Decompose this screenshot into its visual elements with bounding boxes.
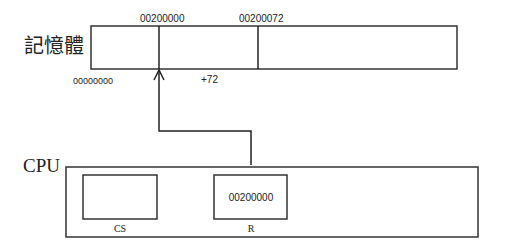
base-address: 00000000: [73, 76, 113, 86]
memory-label: 記憶體: [24, 34, 84, 58]
register-r-value: 00200000: [229, 192, 274, 203]
register-cs-box: [83, 175, 157, 219]
memory-strip: [91, 26, 457, 69]
target-address: 00200072: [239, 13, 284, 24]
segment-start-address: 00200000: [140, 13, 185, 24]
offset-label: +72: [201, 74, 218, 85]
cpu-label: CPU: [23, 155, 60, 176]
register-r-label: R: [248, 223, 255, 234]
register-cs-label: CS: [114, 223, 126, 234]
memory-addressing-diagram: 記憶體 00200000 00200072 00000000 +72 CPU C…: [0, 0, 505, 249]
